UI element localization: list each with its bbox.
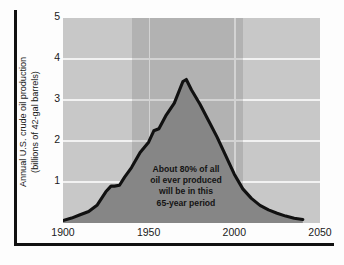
y-tick-label-5: 5 bbox=[38, 10, 60, 22]
x-axis-tick-labels: 1900 1950 2000 2050 bbox=[0, 226, 344, 242]
x-tick-label-1950: 1950 bbox=[125, 226, 173, 238]
y-axis-label-line1: Annual U.S. crude oil production bbox=[17, 22, 29, 222]
annotation-line-1: About 80% of all bbox=[133, 164, 239, 175]
highlight-band-annotation: About 80% of all oil ever produced will … bbox=[133, 164, 239, 209]
y-tick-label-1: 1 bbox=[38, 174, 60, 186]
x-tick-label-2050: 2050 bbox=[296, 226, 344, 238]
y-tick-label-2: 2 bbox=[38, 133, 60, 145]
y-tick-label-4: 4 bbox=[38, 51, 60, 63]
oil-production-chart-figure: Annual U.S. crude oil production (billio… bbox=[0, 0, 344, 265]
annotation-line-2: oil ever produced bbox=[133, 175, 239, 186]
y-tick-label-3: 3 bbox=[38, 92, 60, 104]
x-tick-label-1900: 1900 bbox=[39, 226, 87, 238]
annotation-line-4: 65-year period bbox=[133, 198, 239, 209]
chart-frame-bottom-rule bbox=[14, 243, 334, 246]
annotation-line-3: will be in this bbox=[133, 186, 239, 197]
x-tick-label-2000: 2000 bbox=[210, 226, 258, 238]
